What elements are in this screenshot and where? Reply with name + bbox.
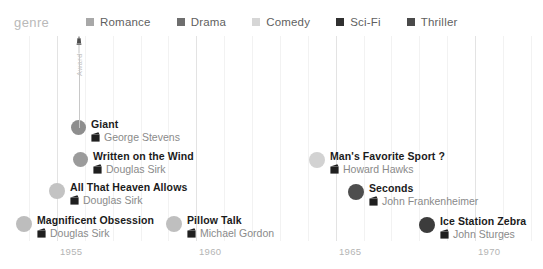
- clapperboard-icon: [440, 229, 449, 239]
- film-text-block: Man's Favorite Sport ?Howard Hawks: [330, 150, 445, 175]
- gridline-minor: [280, 36, 281, 241]
- gridline-minor: [29, 36, 30, 241]
- director-line: John Frankenheimer: [369, 195, 478, 207]
- film-director: John Sturges: [453, 228, 515, 240]
- legend-item-drama[interactable]: Drama: [177, 16, 227, 28]
- film-director: Douglas Sirk: [50, 227, 110, 239]
- gridline-minor: [531, 36, 532, 241]
- film-dot[interactable]: [49, 183, 65, 199]
- film-director: George Stevens: [104, 131, 180, 143]
- film-dot[interactable]: [419, 217, 435, 233]
- legend-item-romance[interactable]: Romance: [86, 16, 151, 28]
- genre-timeline-chart: genre RomanceDramaComedySci-FiThriller G…: [0, 0, 543, 269]
- clapperboard-icon: [330, 164, 339, 174]
- legend-title: genre: [14, 15, 49, 30]
- film-title: Written on the Wind: [93, 150, 194, 162]
- film-text-block: All That Heaven AllowsDouglas Sirk: [70, 181, 187, 206]
- clapperboard-icon: [70, 195, 79, 205]
- film-dot[interactable]: [309, 152, 325, 168]
- director-line: Douglas Sirk: [70, 194, 187, 206]
- film-title: Giant: [91, 118, 180, 130]
- legend: genre RomanceDramaComedySci-FiThriller: [0, 0, 543, 40]
- director-line: Douglas Sirk: [93, 163, 194, 175]
- film-text-block: SecondsJohn Frankenheimer: [369, 182, 478, 207]
- film-director: Michael Gordon: [200, 227, 274, 239]
- legend-swatch-icon: [86, 18, 94, 26]
- legend-item-label: Sci-Fi: [350, 16, 381, 28]
- film-title: Magnificent Obsession: [37, 214, 154, 226]
- legend-items: RomanceDramaComedySci-FiThriller: [86, 16, 484, 28]
- legend-item-comedy[interactable]: Comedy: [252, 16, 310, 28]
- film-director: John Frankenheimer: [382, 195, 478, 207]
- film-text-block: GiantGeorge Stevens: [91, 118, 180, 143]
- legend-swatch-icon: [177, 18, 185, 26]
- x-axis: 1955196019651970: [0, 241, 543, 269]
- gridline-major-1955: [57, 36, 58, 241]
- film-title: Ice Station Zebra: [440, 215, 526, 227]
- axis-tick-1960: 1960: [199, 246, 221, 257]
- legend-swatch-icon: [407, 18, 415, 26]
- legend-item-thriller[interactable]: Thriller: [407, 16, 458, 28]
- gridline-minor: [252, 36, 253, 241]
- legend-item-label: Thriller: [421, 16, 458, 28]
- film-dot[interactable]: [73, 152, 88, 167]
- gridline-major-1960: [196, 36, 197, 241]
- gridline-minor: [419, 36, 420, 241]
- legend-swatch-icon: [336, 18, 344, 26]
- clapperboard-icon: [187, 228, 196, 238]
- legend-item-sci-fi[interactable]: Sci-Fi: [336, 16, 381, 28]
- legend-item-label: Comedy: [266, 16, 310, 28]
- gridline-major-1970: [475, 36, 476, 241]
- film-text-block: Magnificent ObsessionDouglas Sirk: [37, 214, 154, 239]
- legend-item-label: Drama: [191, 16, 227, 28]
- director-line: Douglas Sirk: [37, 227, 154, 239]
- gridline-minor: [364, 36, 365, 241]
- film-director: Douglas Sirk: [106, 163, 166, 175]
- film-text-block: Written on the WindDouglas Sirk: [93, 150, 194, 175]
- film-director: Douglas Sirk: [83, 194, 143, 206]
- clapperboard-icon: [37, 228, 46, 238]
- plot-area: GiantGeorge StevensAwardWritten on the W…: [0, 36, 543, 241]
- director-line: George Stevens: [91, 131, 180, 143]
- director-line: Michael Gordon: [187, 227, 274, 239]
- film-text-block: Ice Station ZebraJohn Sturges: [440, 215, 526, 240]
- clapperboard-icon: [369, 196, 378, 206]
- gridline-minor: [447, 36, 448, 241]
- film-director: Howard Hawks: [343, 163, 414, 175]
- gridline-minor: [85, 36, 86, 241]
- film-title: Man's Favorite Sport ?: [330, 150, 445, 162]
- axis-tick-1965: 1965: [339, 246, 361, 257]
- gridline-minor: [391, 36, 392, 241]
- legend-item-label: Romance: [100, 16, 151, 28]
- legend-swatch-icon: [252, 18, 260, 26]
- gridline-minor: [224, 36, 225, 241]
- film-dot[interactable]: [16, 216, 32, 232]
- clapperboard-icon: [91, 132, 100, 142]
- gridline-minor: [503, 36, 504, 241]
- axis-tick-1970: 1970: [478, 246, 500, 257]
- gridline-major-1965: [336, 36, 337, 241]
- film-dot[interactable]: [348, 184, 364, 200]
- clapperboard-icon: [93, 164, 102, 174]
- gridline-minor: [308, 36, 309, 241]
- director-line: John Sturges: [440, 228, 526, 240]
- film-dot[interactable]: [166, 216, 182, 232]
- film-title: Seconds: [369, 182, 478, 194]
- film-text-block: Pillow TalkMichael Gordon: [187, 214, 274, 239]
- award-label: Award: [76, 53, 83, 76]
- film-title: All That Heaven Allows: [70, 181, 187, 193]
- axis-tick-1955: 1955: [60, 246, 82, 257]
- film-title: Pillow Talk: [187, 214, 274, 226]
- director-line: Howard Hawks: [330, 163, 445, 175]
- oscar-statuette-icon: [74, 36, 84, 54]
